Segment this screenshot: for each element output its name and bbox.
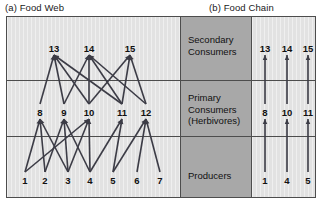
tier-label-line: Consumers (188, 46, 237, 58)
tier-label-line: (Herbivores) (188, 115, 240, 127)
chain-node-8: 8 (262, 107, 267, 118)
web-node-1: 1 (22, 175, 27, 186)
web-node-14: 14 (84, 43, 95, 54)
tier-label-secondary: SecondaryConsumers (188, 34, 237, 57)
chain-node-13: 13 (260, 43, 271, 54)
web-node-3: 3 (65, 175, 70, 186)
chain-link-1-0 (285, 55, 289, 104)
web-node-2: 2 (42, 175, 47, 186)
web-node-5: 5 (110, 175, 115, 186)
tier-label-primary: PrimaryConsumers(Herbivores) (188, 92, 240, 127)
web-node-9: 9 (61, 107, 66, 118)
chain-node-10: 10 (282, 107, 293, 118)
chain-link-2-0 (306, 55, 310, 104)
web-node-7: 7 (157, 175, 162, 186)
web-node-4: 4 (87, 175, 92, 186)
tier-label-line: Producers (188, 170, 231, 182)
web-node-10: 10 (84, 107, 95, 118)
chain-link-0-0 (263, 55, 267, 104)
web-node-11: 11 (117, 107, 127, 118)
chain-node-5: 5 (305, 175, 310, 186)
chain-link-2-1 (306, 119, 310, 172)
web-node-13: 13 (49, 43, 60, 54)
tier-label-line: Secondary (188, 34, 237, 46)
chain-node-15: 15 (303, 43, 314, 54)
web-node-8: 8 (37, 107, 42, 118)
chain-node-1: 1 (262, 175, 267, 186)
web-node-12: 12 (141, 107, 152, 118)
chain-node-11: 11 (303, 107, 313, 118)
tier-label-line: Consumers (188, 104, 240, 116)
web-node-6: 6 (134, 175, 139, 186)
tier-label-producers: Producers (188, 170, 231, 182)
chain-node-14: 14 (282, 43, 293, 54)
chain-node-4: 4 (284, 175, 289, 186)
chain-link-1-1 (285, 119, 289, 172)
tier-label-line: Primary (188, 92, 240, 104)
chain-link-0-1 (263, 119, 267, 172)
food-web-food-chain-figure: (a) Food Web (b) Food Chain 131415891011… (0, 0, 317, 213)
web-node-15: 15 (125, 43, 136, 54)
